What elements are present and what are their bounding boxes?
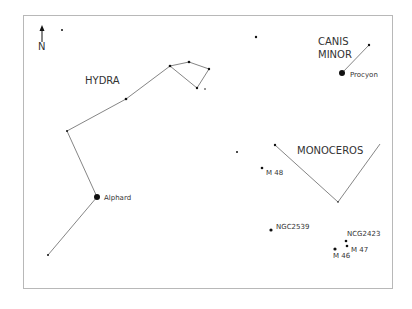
m48-label: M 48 xyxy=(266,169,283,177)
clusters xyxy=(261,167,349,251)
star-chart: N HYDRA CANIS MI xyxy=(0,0,412,309)
hydra-label: HYDRA xyxy=(85,75,120,86)
north-arrow-icon xyxy=(40,25,45,42)
ngc2539-label: NGC2539 xyxy=(276,223,309,231)
canis-minor-label-line2: MINOR xyxy=(318,49,352,60)
north-label: N xyxy=(38,41,45,52)
m46-label: M 46 xyxy=(333,252,351,260)
canis-minor-label-line1: CANIS xyxy=(318,36,349,47)
monoceros-label: MONOCEROS xyxy=(297,145,363,156)
procyon-label: Procyon xyxy=(350,71,378,79)
ncg2423-label: NCG2423 xyxy=(347,230,380,238)
field-stars xyxy=(61,29,257,153)
alphard-label: Alphard xyxy=(104,194,131,202)
m47-label: M 47 xyxy=(351,246,368,254)
hydra-lines xyxy=(48,62,209,255)
